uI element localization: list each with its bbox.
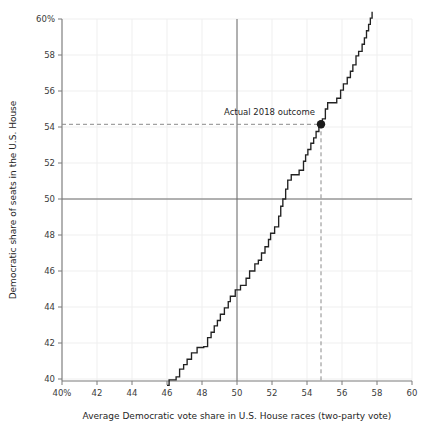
x-tick-label: 52 [267, 388, 278, 398]
y-tick-label: 50 [44, 194, 55, 204]
x-tick-label: 40% [53, 388, 72, 398]
y-axis-ticks: 4042444648505254565860% [36, 14, 62, 384]
seats-votes-curve-chart: 40%42444648505254565860 4042444648505254… [0, 0, 430, 437]
x-tick-label: 50 [232, 388, 243, 398]
annotation-label: Actual 2018 outcome [224, 107, 315, 117]
y-tick-label: 42 [44, 338, 55, 348]
x-tick-label: 48 [197, 388, 208, 398]
y-axis-title: Democratic share of seats in the U.S. Ho… [8, 100, 18, 299]
y-tick-label: 40 [44, 374, 55, 384]
y-tick-label: 48 [44, 230, 55, 240]
x-tick-label: 44 [127, 388, 138, 398]
y-tick-label: 56 [44, 86, 55, 96]
x-tick-label: 46 [162, 388, 173, 398]
y-tick-label: 54 [44, 122, 55, 132]
annotation-group: Actual 2018 outcome [62, 107, 325, 381]
x-tick-label: 60 [407, 388, 418, 398]
x-tick-label: 42 [92, 388, 103, 398]
reference-lines [62, 19, 412, 381]
x-axis-title: Average Democratic vote share in U.S. Ho… [83, 411, 392, 421]
y-tick-label: 52 [44, 158, 55, 168]
x-axis-ticks: 40%42444648505254565860 [53, 381, 418, 398]
chart-figure: 40%42444648505254565860 4042444648505254… [0, 0, 430, 437]
y-tick-label: 60% [36, 14, 55, 24]
x-tick-label: 56 [337, 388, 348, 398]
y-tick-label: 46 [44, 266, 55, 276]
annotation-marker-dot [317, 120, 325, 128]
y-tick-label: 58 [44, 50, 55, 60]
y-tick-label: 44 [44, 302, 55, 312]
x-tick-label: 58 [372, 388, 383, 398]
x-tick-label: 54 [302, 388, 313, 398]
